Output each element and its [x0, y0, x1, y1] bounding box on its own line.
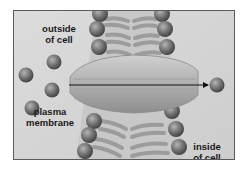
label-inside-line-2: of cell	[182, 152, 232, 160]
label-outside-of-cell: outside of cell	[34, 23, 84, 45]
label-plasma-line-1: plasma	[20, 106, 80, 117]
molecule-inside-cell	[210, 78, 225, 93]
label-plasma-membrane: plasma membrane	[20, 106, 80, 128]
label-inside-line-1: inside	[182, 141, 232, 152]
diagram-frame: outside of cell plasma membrane inside o…	[13, 10, 235, 160]
label-plasma-line-2: membrane	[20, 117, 80, 128]
label-outside-line-2: of cell	[34, 34, 84, 45]
label-outside-line-1: outside	[34, 23, 84, 34]
channel-protein	[70, 55, 198, 113]
label-inside-of-cell: inside of cell	[182, 141, 232, 160]
